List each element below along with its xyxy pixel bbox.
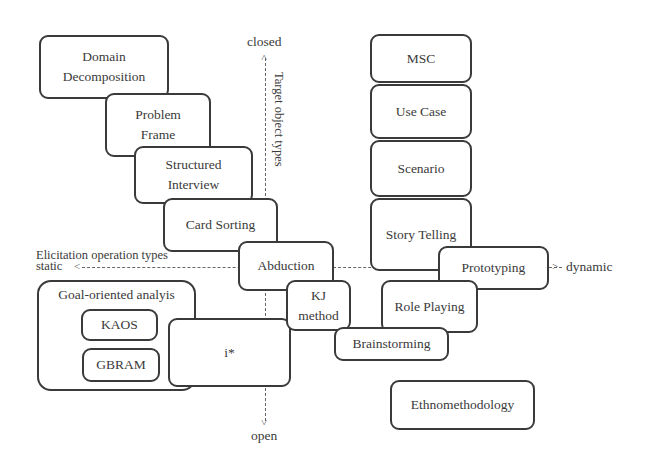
box-kaos: KAOS <box>81 309 158 341</box>
box-domain-decomposition: DomainDecomposition <box>39 35 169 99</box>
arrow-right-icon: ˃ <box>552 261 558 272</box>
group-title: Goal-oriented analyis <box>39 287 194 303</box>
box-gbram: GBRAM <box>82 348 160 382</box>
arrow-down-icon: ˅ <box>261 417 267 428</box>
box-label: Domain <box>63 47 146 67</box>
box-label: Scenario <box>397 159 444 179</box>
box-label: GBRAM <box>96 355 146 375</box>
box-kj-method: KJmethod <box>286 280 351 331</box>
box-role-playing: Role Playing <box>381 280 478 333</box>
box-label: Use Case <box>396 102 447 122</box>
box-i-star: i* <box>168 318 291 387</box>
box-label: method <box>298 306 339 326</box>
box-use-case: Use Case <box>370 84 472 139</box>
vertical-axis-title: Target object types <box>271 72 286 167</box>
box-label: Interview <box>165 175 221 195</box>
box-label: Story Telling <box>386 225 456 245</box>
axis-bottom-label: open <box>251 428 277 444</box>
arrow-left-icon: ˂ <box>74 261 80 272</box>
arrow-up-icon: ˄ <box>261 52 267 63</box>
box-label: MSC <box>407 49 436 69</box>
box-label: Problem <box>135 105 181 125</box>
box-label: KAOS <box>101 315 138 335</box>
axis-left-label: static <box>36 260 62 273</box>
box-label: Prototyping <box>462 258 526 278</box>
box-label: Role Playing <box>394 297 464 317</box>
box-structured-interview: StructuredInterview <box>134 146 253 204</box>
box-brainstorming: Brainstorming <box>334 327 449 361</box>
box-label: Structured <box>165 155 221 175</box>
box-label: Brainstorming <box>353 334 431 354</box>
box-label: Frame <box>135 125 181 145</box>
box-label: KJ <box>298 286 339 306</box>
box-scenario: Scenario <box>370 140 472 197</box>
axis-top-label: closed <box>247 34 282 50</box>
box-label: Decomposition <box>63 67 146 87</box>
box-ethnomethodology: Ethnomethodology <box>390 380 535 430</box>
axis-right-label: dynamic <box>566 259 613 275</box>
box-label: i* <box>224 343 235 363</box>
box-label: Card Sorting <box>186 215 255 235</box>
box-msc: MSC <box>370 34 472 83</box>
box-label: Ethnomethodology <box>411 395 515 415</box>
box-label: Abduction <box>258 256 315 276</box>
